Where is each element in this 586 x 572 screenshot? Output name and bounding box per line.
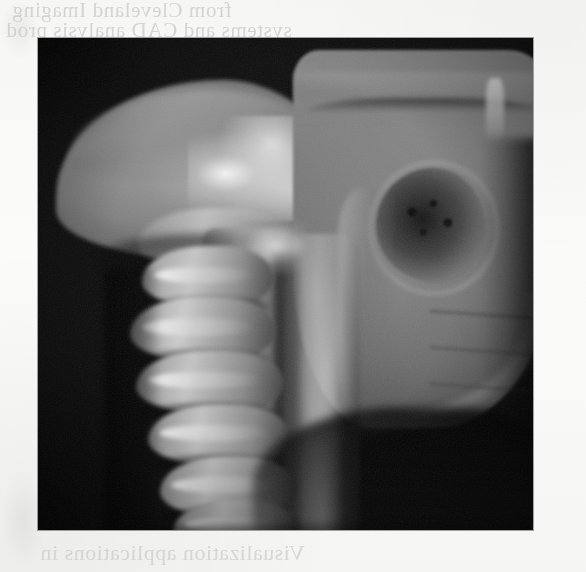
scan-grain-overlay xyxy=(38,38,533,530)
bottom-background-shadow xyxy=(98,524,528,530)
occipital-bone xyxy=(56,80,346,260)
corner-shadow-top-left xyxy=(38,38,158,148)
vertebra-c4 xyxy=(136,350,284,414)
orbital-rim xyxy=(368,160,500,296)
mandibular-ramus xyxy=(338,188,394,438)
bleed-through-text-bottom-line-1: Visualization applications in xyxy=(40,540,305,566)
bright-bone-strip xyxy=(486,78,504,144)
mastoid-process xyxy=(138,208,298,266)
right-edge-shadow xyxy=(481,138,533,438)
mandible-curve xyxy=(358,293,533,443)
occipital-highlight xyxy=(188,116,323,221)
orbit-foramina xyxy=(396,188,468,248)
bleed-through-text-top-line-1: from Cleveland Imaging xyxy=(12,0,232,23)
occipital-rim xyxy=(68,90,330,182)
vertebra-c7 xyxy=(174,500,298,530)
vertebra-c2 xyxy=(142,246,274,308)
scan-smudge-left-top xyxy=(0,0,40,60)
vertebra-c3 xyxy=(130,296,276,362)
corner-shadow-bottom-left xyxy=(38,360,178,530)
zygomatic-arch-upper xyxy=(294,72,533,108)
axis-dens xyxy=(234,216,324,276)
vertebra-c6 xyxy=(160,456,296,518)
scanned-page: from Cleveland Imaging systems and CAD a… xyxy=(0,0,586,572)
spinal-canal-shadow xyxy=(274,252,300,530)
plate-description: 3D volume-rendered grayscale CT of skull… xyxy=(38,38,39,39)
facial-skeleton-mass xyxy=(293,50,533,428)
plate-vignette xyxy=(38,38,533,530)
left-background-shadow xyxy=(104,268,162,530)
skull-base-shadow xyxy=(98,234,313,286)
posterior-element-column xyxy=(284,234,360,530)
orbit-socket xyxy=(376,168,486,283)
cervical-spine-column xyxy=(203,228,315,530)
maxilla-tooth-rows xyxy=(430,300,533,420)
zygomatic-arch-band xyxy=(296,98,533,124)
medical-image-plate: 3D volume-rendered grayscale CT of skull… xyxy=(38,38,533,530)
vertebra-c5 xyxy=(148,404,290,466)
submandibular-shadow xyxy=(253,408,533,530)
